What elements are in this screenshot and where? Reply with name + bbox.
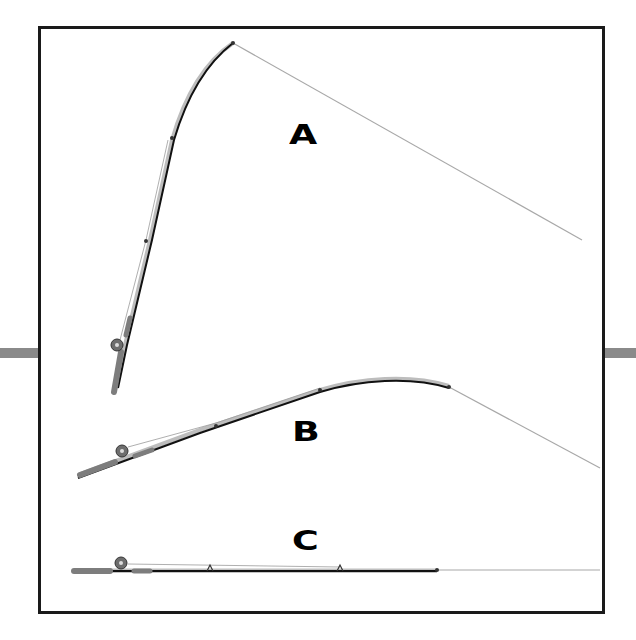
guide-icon (318, 388, 322, 392)
line-a (233, 43, 582, 240)
rod-b (78, 379, 600, 478)
tip-top-icon (231, 41, 235, 45)
rod-a-blank (118, 43, 233, 388)
label-c: C (292, 527, 319, 554)
grip-a (114, 352, 121, 392)
line-b (449, 387, 600, 468)
rod-b-blank (78, 381, 449, 478)
guide-icon (214, 424, 218, 428)
guide-icon (144, 239, 148, 243)
rod-c (72, 557, 600, 572)
label-b: B (292, 418, 320, 445)
grip-b (80, 462, 115, 475)
guide-icon (170, 136, 174, 140)
rod-a-highlight (116, 43, 233, 388)
label-a: A (289, 121, 317, 148)
tip-top-icon (435, 568, 439, 572)
rod-b-highlight (78, 379, 449, 475)
tip-top-icon (447, 385, 451, 389)
rod-a (111, 41, 582, 392)
